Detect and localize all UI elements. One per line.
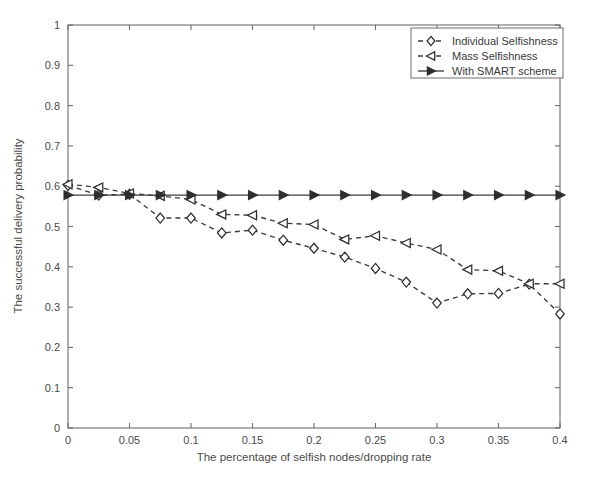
x-tick-label: 0.25 — [365, 434, 386, 446]
y-tick-label: 0.2 — [45, 341, 60, 353]
marker-right-triangle — [372, 191, 381, 200]
marker-diamond — [402, 277, 411, 287]
x-tick-label: 0.3 — [429, 434, 444, 446]
y-tick-label: 0.1 — [45, 382, 60, 394]
marker-right-triangle — [249, 191, 258, 200]
marker-left-triangle — [432, 245, 441, 254]
marker-left-triangle — [340, 235, 349, 244]
marker-diamond — [433, 298, 442, 308]
legend-label: Mass Selfishness — [452, 50, 538, 62]
x-tick-label: 0.15 — [242, 434, 263, 446]
y-tick-label: 0.7 — [45, 140, 60, 152]
marker-diamond — [218, 228, 227, 238]
series-1 — [64, 180, 565, 319]
marker-diamond — [464, 289, 473, 299]
y-axis-title: The successful delivery probability — [12, 138, 24, 313]
marker-left-triangle — [463, 265, 472, 274]
series-layer — [63, 180, 565, 319]
marker-right-triangle — [310, 191, 319, 200]
x-tick-label: 0.1 — [183, 434, 198, 446]
marker-diamond — [156, 213, 165, 223]
x-tick-label: 0.2 — [306, 434, 321, 446]
y-tick-label: 0.4 — [45, 261, 60, 273]
x-axis-title: The percentage of selfish nodes/dropping… — [197, 451, 432, 463]
marker-left-triangle — [278, 219, 287, 228]
legend-label: Individual Selfishness — [452, 35, 558, 47]
marker-diamond — [310, 243, 319, 253]
legend-entries: Individual SelfishnessMass SelfishnessWi… — [418, 35, 558, 77]
x-tick-label: 0.4 — [552, 434, 567, 446]
marker-diamond — [556, 309, 565, 319]
x-tick-label: 0.35 — [488, 434, 509, 446]
marker-left-triangle — [248, 211, 257, 220]
series-line — [68, 184, 560, 284]
marker-right-triangle — [495, 191, 504, 200]
marker-right-triangle — [525, 191, 534, 200]
marker-left-triangle — [401, 239, 410, 248]
marker-diamond — [248, 225, 257, 235]
y-axis-tick-labels: 00.10.20.30.40.50.60.70.80.91 — [45, 19, 60, 434]
y-tick-label: 0.9 — [45, 59, 60, 71]
marker-left-triangle — [217, 210, 226, 219]
y-tick-label: 0.5 — [45, 221, 60, 233]
marker-diamond — [187, 213, 196, 223]
legend-label: With SMART scheme — [452, 65, 557, 77]
line-chart: 00.050.10.150.20.250.30.350.4 00.10.20.3… — [0, 0, 610, 485]
marker-diamond — [371, 263, 380, 273]
marker-right-triangle — [279, 191, 288, 200]
y-tick-label: 0.6 — [45, 180, 60, 192]
marker-left-triangle — [309, 220, 318, 229]
chart-legend: Individual SelfishnessMass SelfishnessWi… — [411, 28, 563, 78]
y-tick-label: 0.8 — [45, 100, 60, 112]
y-tick-label: 0.3 — [45, 301, 60, 313]
x-tick-label: 0.05 — [119, 434, 140, 446]
x-tick-label: 0 — [65, 434, 71, 446]
x-axis-tick-labels: 00.050.10.150.20.250.30.350.4 — [65, 434, 568, 446]
marker-diamond — [494, 288, 503, 298]
marker-left-triangle — [371, 231, 380, 240]
marker-right-triangle — [433, 191, 442, 200]
marker-left-triangle — [494, 266, 503, 275]
y-tick-label: 0 — [54, 422, 60, 434]
y-tick-label: 1 — [54, 19, 60, 31]
marker-diamond — [279, 235, 288, 245]
marker-right-triangle — [341, 191, 350, 200]
chart-figure: 00.050.10.150.20.250.30.350.4 00.10.20.3… — [0, 0, 610, 485]
marker-diamond — [341, 252, 350, 262]
marker-right-triangle — [402, 191, 411, 200]
marker-right-triangle — [218, 191, 227, 200]
marker-right-triangle — [464, 191, 473, 200]
series-3 — [64, 191, 565, 200]
